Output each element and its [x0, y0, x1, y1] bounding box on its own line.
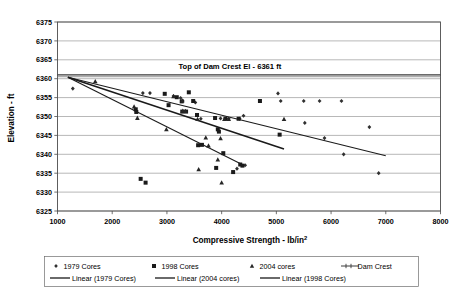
legend-item-label: Linear (1979 Cores) [72, 274, 136, 283]
y-axis-title: Elevation - ft [7, 93, 16, 142]
y-tick-label: 6370 [36, 37, 52, 46]
x-axis-title: Compressive Strength - lb/in2 [193, 235, 308, 245]
y-tick-label: 6335 [36, 169, 52, 178]
data-point-square [278, 133, 282, 137]
y-tick-label: 6355 [36, 93, 52, 102]
data-point-square [200, 143, 204, 147]
x-tick-label: 5000 [268, 217, 284, 226]
data-point-square [163, 92, 167, 96]
data-point-square [221, 151, 225, 155]
chart-annotations: Top of Dam Crest El - 6361 ft [178, 62, 281, 71]
data-point-square [167, 103, 171, 107]
data-point-square [231, 170, 235, 174]
y-tick-label: 6375 [36, 18, 52, 27]
x-axis-ticks: 10002000300040005000600070008000 [50, 211, 449, 226]
legend-item-label: Linear (2004 cores) [177, 274, 239, 283]
x-tick-label: 2000 [104, 217, 120, 226]
x-tick-label: 1000 [50, 217, 66, 226]
y-tick-label: 6360 [36, 74, 52, 83]
data-point-square [217, 130, 221, 134]
data-point-square [191, 99, 195, 103]
y-tick-label: 6345 [36, 131, 52, 140]
y-tick-label: 6340 [36, 150, 52, 159]
data-point-square [196, 143, 200, 147]
x-tick-label: 8000 [433, 217, 449, 226]
legend-item-label: 1998 Cores [162, 262, 200, 271]
y-axis-ticks: 6325633063356340634563506355636063656370… [36, 18, 58, 216]
data-point-square [175, 95, 179, 99]
data-point-square [214, 166, 218, 170]
legend-item-label: 2004 cores [260, 262, 296, 271]
y-tick-label: 6350 [36, 112, 52, 121]
x-tick-label: 6000 [323, 217, 339, 226]
legend-item-label: Dam Crest [358, 262, 392, 271]
legend-marker-square [152, 264, 156, 268]
data-point-square [139, 177, 143, 181]
x-tick-label: 4000 [214, 217, 230, 226]
y-tick-label: 6325 [36, 207, 52, 216]
legend-item-label: Linear (1998 Cores) [282, 274, 346, 283]
compressive-strength-elevation-chart: 6325633063356340634563506355636063656370… [0, 0, 463, 300]
y-tick-label: 6365 [36, 55, 52, 64]
data-point-square [237, 117, 241, 121]
data-point-square [187, 90, 191, 94]
x-tick-label: 7000 [378, 217, 394, 226]
data-point-square [134, 110, 138, 114]
chart-container: 6325633063356340634563506355636063656370… [0, 0, 463, 300]
data-point-square [144, 181, 148, 185]
chart-legend: 1979 Cores1998 Cores2004 coresDam CrestL… [45, 257, 419, 287]
data-point-square [240, 164, 244, 168]
legend-item-label: 1979 Cores [64, 262, 102, 271]
dam-crest-annotation: Top of Dam Crest El - 6361 ft [178, 62, 281, 71]
data-point-square [258, 99, 262, 103]
data-point-square [195, 113, 199, 117]
y-tick-label: 6330 [36, 188, 52, 197]
x-tick-label: 3000 [159, 217, 175, 226]
data-point-square [213, 116, 217, 120]
